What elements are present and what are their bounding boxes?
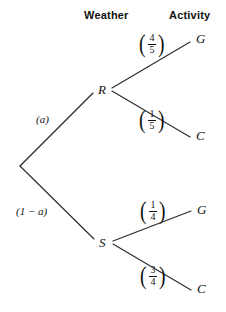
branch-prob-to-sun: (1 − a)	[16, 205, 47, 217]
paren-right-icon: )	[159, 200, 166, 221]
paren-right-icon: )	[158, 109, 165, 130]
fraction-numerator: 4	[150, 33, 155, 44]
leaf-label-sun-good: G	[197, 202, 206, 218]
leaf-label-rain-cancel: C	[196, 128, 205, 144]
branch-prob-rain-good: ( 4 5 )	[137, 29, 167, 59]
branch-prob-to-rain: (a)	[36, 113, 49, 125]
leaf-label-sun-cancel: C	[197, 281, 206, 297]
fraction-denominator: 4	[151, 277, 156, 288]
fraction-rain-good: 4 5	[147, 33, 157, 56]
branch-root-to-rain	[20, 93, 93, 166]
paren-left-icon: (	[140, 265, 147, 286]
paren-left-icon: (	[139, 109, 146, 130]
stage-header-weather: Weather	[84, 9, 129, 21]
branch-prob-rain-cancel: ( 1 5 )	[137, 105, 167, 135]
paren-left-icon: (	[139, 33, 146, 54]
fraction-numerator: 1	[151, 200, 156, 211]
fraction-denominator: 5	[150, 121, 155, 132]
fraction-sun-good: 1 4	[148, 200, 158, 223]
branch-root-to-sun	[20, 166, 94, 239]
paren-right-icon: )	[159, 265, 166, 286]
tree-branch-lines	[0, 0, 226, 312]
fraction-numerator: 1	[150, 109, 155, 120]
leaf-label-rain-good: G	[196, 31, 205, 47]
fraction-rain-cancel: 1 5	[147, 109, 157, 132]
branch-prob-sun-good: ( 1 4 )	[138, 196, 168, 226]
fraction-sun-cancel: 3 4	[148, 265, 158, 288]
probability-tree-diagram: Weather Activity R S G C G C (a) (1 − a)…	[0, 0, 226, 312]
node-label-rain: R	[98, 82, 106, 98]
paren-right-icon: )	[158, 33, 165, 54]
fraction-denominator: 4	[151, 212, 156, 223]
fraction-denominator: 5	[150, 45, 155, 56]
stage-header-activity: Activity	[169, 9, 210, 21]
node-label-sun: S	[99, 235, 106, 251]
fraction-numerator: 3	[151, 265, 156, 276]
branch-prob-sun-cancel: ( 3 4 )	[138, 261, 168, 291]
paren-left-icon: (	[140, 200, 147, 221]
